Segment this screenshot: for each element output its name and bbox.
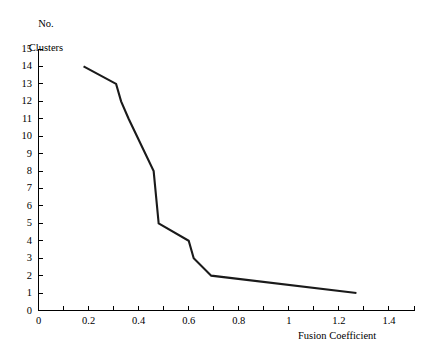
x-tick-label-0.6: 0.6 <box>169 315 209 326</box>
y-tick-label-6: 6 <box>6 200 32 211</box>
x-tick-label-0.8: 0.8 <box>219 315 259 326</box>
x-tick-label-1.2: 1.2 <box>319 315 359 326</box>
x-tick-label-1.4: 1.4 <box>369 315 409 326</box>
x-tick-label-0.2: 0.2 <box>69 315 109 326</box>
y-tick-label-7: 7 <box>6 182 32 193</box>
y-tick-label-14: 14 <box>6 60 32 71</box>
y-tick-label-11: 11 <box>6 113 32 124</box>
x-tick-label-1: 1 <box>269 315 309 326</box>
x-tick-label-0.4: 0.4 <box>119 315 159 326</box>
y-tick-label-8: 8 <box>6 165 32 176</box>
scree-plot-chart: No. Clusters 0123456789101112131415 00.2… <box>0 0 428 357</box>
y-tick-label-4: 4 <box>6 235 32 246</box>
y-tick-label-15: 15 <box>6 43 32 54</box>
y-tick-label-1: 1 <box>6 287 32 298</box>
data-series-group <box>84 66 357 293</box>
axis-lines <box>38 49 414 311</box>
y-tick-label-13: 13 <box>6 78 32 89</box>
plot-area <box>0 0 428 357</box>
y-tick-label-12: 12 <box>6 95 32 106</box>
y-tick-label-9: 9 <box>6 148 32 159</box>
data-line-series-0 <box>84 66 357 293</box>
y-tick-label-2: 2 <box>6 270 32 281</box>
x-axis-title: Fusion Coefficient <box>298 330 376 342</box>
y-tick-label-3: 3 <box>6 252 32 263</box>
x-axis-ticks <box>39 306 415 311</box>
y-tick-label-5: 5 <box>6 217 32 228</box>
y-tick-label-10: 10 <box>6 130 32 141</box>
y-axis-ticks <box>39 49 44 311</box>
x-tick-label-0: 0 <box>19 315 59 326</box>
